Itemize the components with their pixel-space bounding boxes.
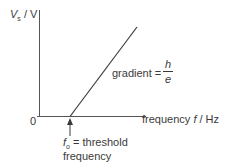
threshold-text: = threshold bbox=[70, 136, 128, 148]
threshold-label-line2: frequency bbox=[63, 151, 111, 162]
gradient-label: gradient = bbox=[112, 68, 161, 79]
threshold-subscript: o bbox=[66, 143, 70, 150]
x-axis-label: frequency f / Hz bbox=[142, 114, 219, 125]
gradient-text: gradient = bbox=[112, 67, 161, 79]
y-axis-subscript: s bbox=[17, 15, 21, 22]
fraction-numerator: h bbox=[163, 58, 173, 70]
fraction-denominator: e bbox=[163, 73, 173, 85]
photoelectric-graph: Vs / V 0 frequency f / Hz gradient = h e… bbox=[0, 0, 232, 168]
x-axis-text: frequency bbox=[142, 113, 193, 125]
x-axis-unit: / Hz bbox=[196, 113, 219, 125]
origin-label: 0 bbox=[30, 116, 36, 127]
gradient-fraction: h e bbox=[163, 58, 173, 85]
threshold-arrow-head bbox=[67, 118, 73, 125]
y-axis-unit: / V bbox=[21, 8, 38, 20]
threshold-label: fo = threshold bbox=[63, 137, 128, 148]
fraction-bar bbox=[163, 71, 173, 72]
y-axis-label: Vs / V bbox=[10, 9, 37, 20]
